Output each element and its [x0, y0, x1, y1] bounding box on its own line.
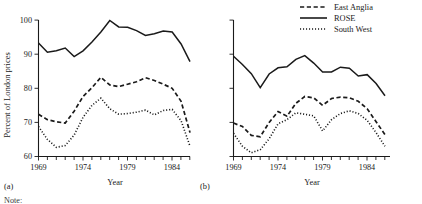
panel-a-series-east-anglia: [39, 77, 191, 132]
panel-b-xtick-1979: 1979: [314, 163, 330, 172]
panel-a-y-ticks: [35, 20, 39, 156]
panel-a-ytick-90: 90: [24, 50, 32, 59]
panel-b: 1969 1974 1979 1984 Year (b): [200, 20, 390, 191]
panel-a-xtick-1974: 1974: [75, 163, 91, 172]
legend-label-east-anglia: East Anglia: [334, 3, 373, 12]
legend-label-south-west: South West: [334, 25, 373, 34]
panel-a-ytick-60: 60: [24, 152, 32, 161]
panel-b-x-axis-title: Year: [304, 178, 320, 187]
panel-a-xtick-1969: 1969: [30, 163, 46, 172]
panel-b-x-ticks: [234, 157, 385, 161]
panel-a-xtick-1979: 1979: [119, 163, 135, 172]
panel-a-ytick-70: 70: [24, 118, 32, 127]
panel-b-xtick-1969: 1969: [225, 163, 241, 172]
figure-container: East Anglia ROSE South West Percent of L…: [0, 0, 422, 204]
panel-a-tag: (a): [4, 182, 14, 191]
chart-svg: East Anglia ROSE South West Percent of L…: [0, 0, 422, 204]
panel-a-x-ticks: [39, 157, 190, 161]
panel-b-xtick-1984: 1984: [359, 163, 375, 172]
panel-b-series-south-west: [234, 111, 386, 153]
panel-b-series-rose: [234, 56, 386, 96]
panel-a-x-axis-title: Year: [107, 178, 123, 187]
panel-b-series-east-anglia: [234, 96, 386, 136]
footnote: Note:: [4, 196, 22, 204]
panel-a-ytick-100: 100: [20, 16, 32, 25]
panel-a-axes: [39, 20, 191, 157]
panel-a-series-rose: [39, 20, 191, 61]
legend: East Anglia ROSE South West: [300, 3, 373, 34]
panel-a-xtick-1984: 1984: [164, 163, 180, 172]
panel-a: 60 70 80 90 100: [4, 16, 190, 191]
panel-a-ytick-80: 80: [24, 84, 32, 93]
y-axis-title: Percent of London prices: [2, 52, 12, 138]
legend-label-rose: ROSE: [334, 14, 355, 23]
panel-b-tag: (b): [200, 182, 210, 191]
panel-b-y-ticks: [230, 20, 234, 156]
panel-b-xtick-1974: 1974: [270, 163, 286, 172]
